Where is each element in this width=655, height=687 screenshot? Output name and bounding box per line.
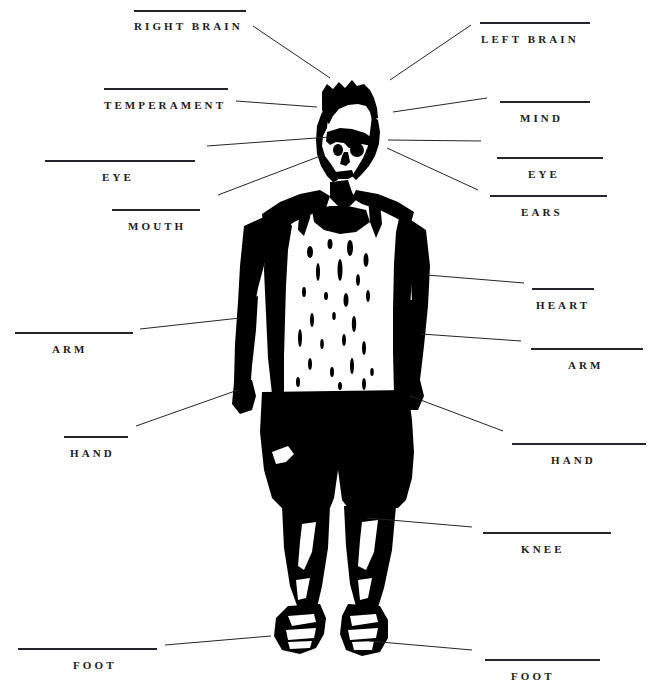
labels-layer: RIGHT BRAINLEFT BRAINTEMPERAMENTMINDEYEE… bbox=[0, 0, 655, 687]
label-rule-heart bbox=[532, 288, 594, 290]
label-rule-hand-left bbox=[64, 436, 128, 438]
label-temperament[interactable]: TEMPERAMENT bbox=[104, 100, 226, 111]
label-arm-left[interactable]: ARM bbox=[52, 344, 88, 355]
label-heart[interactable]: HEART bbox=[536, 300, 590, 311]
label-knee[interactable]: KNEE bbox=[521, 544, 565, 555]
label-hand-right[interactable]: HAND bbox=[551, 455, 596, 466]
label-rule-foot-right bbox=[485, 659, 600, 661]
label-rule-right-brain bbox=[134, 10, 246, 12]
label-rule-eye-right bbox=[497, 157, 603, 159]
label-ears[interactable]: EARS bbox=[521, 207, 563, 218]
label-arm-right[interactable]: ARM bbox=[568, 360, 604, 371]
label-hand-left[interactable]: HAND bbox=[70, 448, 115, 459]
label-rule-knee bbox=[483, 532, 611, 534]
label-rule-temperament bbox=[104, 88, 228, 90]
label-foot-left[interactable]: FOOT bbox=[73, 660, 117, 671]
label-foot-right[interactable]: FOOT bbox=[511, 671, 555, 682]
label-rule-hand-right bbox=[512, 443, 646, 445]
label-rule-mind bbox=[500, 101, 590, 103]
label-rule-foot-left bbox=[18, 648, 157, 650]
label-rule-arm-right bbox=[531, 348, 643, 350]
label-rule-eye-left bbox=[45, 160, 195, 162]
label-rule-arm-left bbox=[15, 332, 133, 334]
label-mind[interactable]: MIND bbox=[520, 113, 563, 124]
label-mouth[interactable]: MOUTH bbox=[128, 221, 186, 232]
label-rule-mouth bbox=[112, 209, 200, 211]
label-right-brain[interactable]: RIGHT BRAIN bbox=[134, 21, 243, 32]
label-rule-left-brain bbox=[480, 22, 590, 24]
label-eye-right[interactable]: EYE bbox=[528, 169, 560, 180]
label-left-brain[interactable]: LEFT BRAIN bbox=[481, 34, 579, 45]
label-eye-left[interactable]: EYE bbox=[102, 172, 134, 183]
label-rule-ears bbox=[490, 195, 607, 197]
diagram-canvas: RIGHT BRAINLEFT BRAINTEMPERAMENTMINDEYEE… bbox=[0, 0, 655, 687]
